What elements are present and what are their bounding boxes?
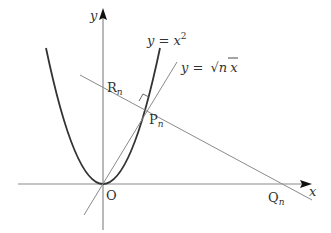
point-p-sub: n [158, 119, 164, 129]
point-p-label: Pn [149, 112, 164, 129]
parabola-label: y = x2 [146, 31, 187, 48]
point-p-base: P [149, 112, 158, 127]
y-axis-label: y [89, 8, 98, 23]
point-r-label: Rn [107, 80, 123, 97]
point-r-sub: n [117, 87, 123, 97]
line-label-n: n [219, 60, 227, 75]
geometry-diagram: y x O y = x2 y = √nx Rn Pn Qn [0, 0, 331, 233]
line-label: y = √nx [180, 60, 238, 75]
x-axis-label: x [309, 184, 317, 199]
point-q-sub: n [279, 197, 285, 207]
parabola-label-lhs: y = [146, 33, 174, 48]
parabola-label-exponent: 2 [181, 31, 187, 41]
line-label-lhs: y = [180, 60, 208, 75]
origin-label: O [106, 188, 117, 203]
point-q-base: Q [268, 190, 279, 205]
line-label-x: x [230, 60, 238, 75]
point-q-label: Qn [268, 190, 285, 207]
